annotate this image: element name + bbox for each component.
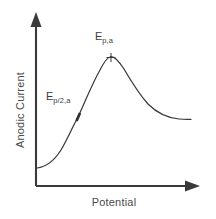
peak-cross-marker — [107, 53, 116, 62]
half-peak-subscript: p/2,a — [53, 96, 70, 105]
half-peak-potential-label: Ep/2,a — [46, 90, 71, 102]
y-axis-label: Anodic Current — [14, 58, 26, 162]
peak-potential-label: Ep,a — [95, 30, 113, 42]
x-axis-arrowhead — [185, 181, 200, 192]
peak-subscript: p,a — [102, 36, 113, 45]
y-axis-arrowhead — [31, 12, 42, 27]
voltammogram-figure: Anodic Current Potential Ep,a Ep/2,a — [0, 0, 216, 219]
anodic-current-curve — [37, 57, 191, 169]
x-axis-label: Potential — [68, 196, 160, 208]
half-peak-tick-marker — [77, 113, 81, 121]
